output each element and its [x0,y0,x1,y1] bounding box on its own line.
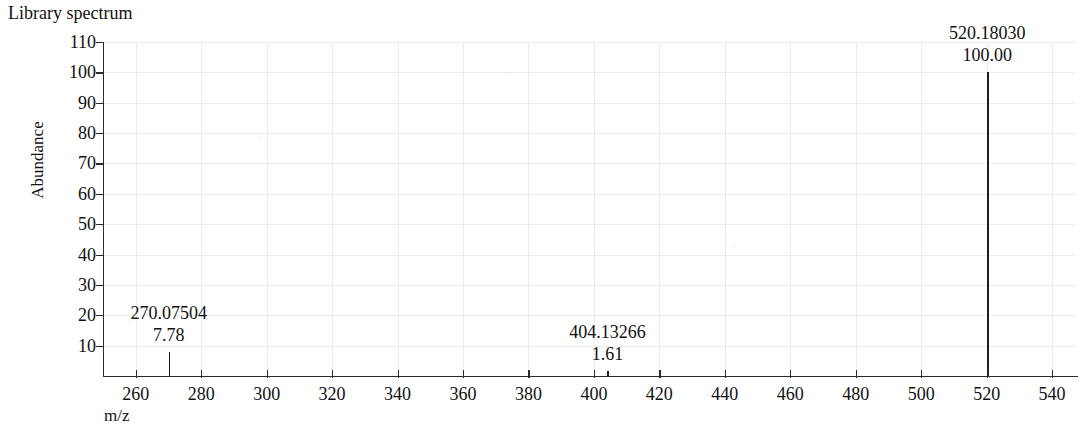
peak-abundance-value: 100.00 [887,44,1082,66]
x-tick-mark [1052,370,1053,378]
x-axis-line [103,376,1078,377]
x-tick-mark [528,370,529,378]
gridline-horizontal [103,133,1075,134]
gridline-vertical [332,42,333,376]
y-tick-label: 40 [50,246,96,264]
x-tick-mark [594,370,595,378]
x-tick-label: 400 [564,384,624,404]
x-tick-label: 540 [1022,384,1082,404]
y-tick-mark [96,285,104,286]
x-tick-label: 520 [957,384,1017,404]
gridline-horizontal [103,103,1075,104]
x-tick-mark [725,370,726,378]
y-tick-label: 60 [50,185,96,203]
y-tick-mark [96,224,104,225]
x-tick-label: 380 [498,384,558,404]
y-tick-mark [96,194,104,195]
x-tick-label: 300 [237,384,297,404]
gridline-horizontal [103,224,1075,225]
y-tick-label: 80 [50,124,96,142]
gridline-horizontal [103,285,1075,286]
x-tick-mark [332,370,333,378]
gridline-vertical [856,42,857,376]
x-tick-mark [921,370,922,378]
x-tick-label: 440 [695,384,755,404]
gridline-vertical [398,42,399,376]
y-tick-mark [96,103,104,104]
x-tick-mark [463,370,464,378]
gridline-vertical [921,42,922,376]
peak-label: 404.132661.61 [507,321,707,365]
x-tick-label: 320 [302,384,362,404]
x-tick-mark [398,370,399,378]
gridline-vertical [725,42,726,376]
y-tick-mark [96,163,104,164]
y-tick-label: 90 [50,94,96,112]
peak-line [987,72,989,376]
gridline-horizontal [103,163,1075,164]
gridline-horizontal [103,194,1075,195]
peak-abundance-value: 1.61 [507,343,707,365]
x-tick-label: 420 [629,384,689,404]
gridline-vertical [463,42,464,376]
x-tick-mark [267,370,268,378]
x-tick-label: 260 [106,384,166,404]
y-tick-mark [96,133,104,134]
peak-label: 270.075047.78 [69,302,269,346]
x-tick-label: 480 [826,384,886,404]
x-tick-label: 280 [171,384,231,404]
y-tick-label: 100 [50,63,96,81]
x-tick-label: 340 [368,384,428,404]
peak-line [169,352,171,376]
x-tick-mark [856,370,857,378]
peak-mz-value: 270.07504 [69,302,269,324]
x-tick-label: 460 [760,384,820,404]
y-tick-mark [96,255,104,256]
x-tick-mark [136,370,137,378]
x-tick-mark [987,370,988,378]
y-tick-label: 30 [50,276,96,294]
y-tick-label: 70 [50,154,96,172]
gridline-horizontal [103,72,1075,73]
y-tick-mark [96,72,104,73]
peak-abundance-value: 7.78 [69,324,269,346]
x-tick-mark [201,370,202,378]
y-tick-label: 110 [50,33,96,51]
gridline-vertical [790,42,791,376]
peak-mz-value: 520.18030 [887,22,1082,44]
y-tick-label: 50 [50,215,96,233]
peak-label: 520.18030100.00 [887,22,1082,66]
y-axis-ticks: 102030405060708090100110 [0,0,96,433]
x-tick-label: 500 [891,384,951,404]
x-tick-mark [659,370,660,378]
x-tick-mark [790,370,791,378]
y-tick-mark [96,42,104,43]
gridline-vertical [1052,42,1053,376]
x-axis-title: m/z [104,406,130,426]
peak-mz-value: 404.13266 [507,321,707,343]
gridline-horizontal [103,255,1075,256]
x-tick-label: 360 [433,384,493,404]
